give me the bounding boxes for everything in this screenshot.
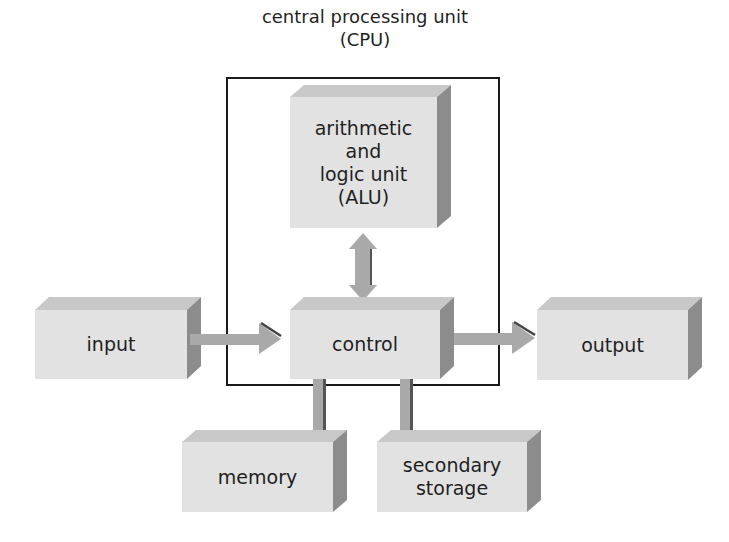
input-label: input — [35, 310, 187, 379]
secondary-storage-label: secondary storage — [377, 442, 527, 512]
alu-label: arithmetic and logic unit (ALU) — [290, 97, 437, 228]
output-label: output — [537, 310, 688, 380]
control-label: control — [290, 310, 440, 379]
memory-label: memory — [182, 442, 333, 512]
control-to-output-arrow — [454, 322, 535, 354]
cpu-architecture-diagram: central processing unit (CPU) — [0, 0, 729, 542]
diagram-canvas — [0, 0, 729, 542]
alu-control-bidirectional-arrow — [349, 233, 377, 301]
control-storage-connector — [400, 379, 413, 437]
input-to-control-arrow — [190, 323, 281, 354]
control-memory-connector — [313, 379, 326, 437]
